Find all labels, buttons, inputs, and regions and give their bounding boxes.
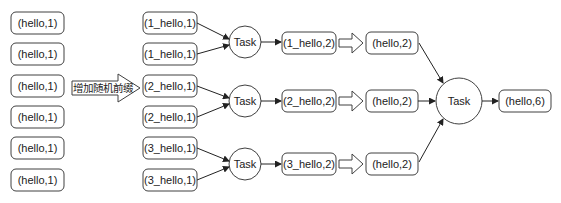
node-label: (2_hello,1) [144, 111, 196, 123]
node-label: (hello,6) [505, 95, 545, 107]
node-label: (hello,1) [18, 174, 58, 186]
node-label: (2_hello,1) [144, 80, 196, 92]
remove-prefix-arrow [339, 91, 363, 111]
node-label: (1_hello,2) [283, 37, 335, 49]
source-node: (hello,1) [11, 137, 64, 159]
node-label: (1_hello,1) [144, 48, 196, 60]
two-stage-aggregation-diagram: (hello,1) (hello,1) (hello,1) (hello,1) … [0, 0, 561, 203]
arrow-label: 增加随机前缀 [73, 82, 134, 94]
prefixed-node: (1_hello,1) [143, 12, 197, 34]
node-label: (hello,1) [18, 17, 58, 29]
edge [197, 86, 229, 98]
node-label: (hello,1) [18, 142, 58, 154]
edge [419, 43, 443, 83]
add-random-prefix-arrow: 增加随机前缀 [72, 74, 140, 102]
node-label: (hello,1) [18, 48, 58, 60]
node-label: (hello,2) [372, 158, 412, 170]
remove-prefix-arrow [339, 33, 363, 53]
task-label: Task [448, 95, 471, 107]
prefix-removed-node: (hello,2) [366, 32, 418, 54]
partial-result-node: (3_hello,2) [282, 153, 336, 175]
task-node: Task [229, 85, 261, 117]
prefix-removed-node: (hello,2) [366, 90, 418, 112]
prefixed-node: (1_hello,1) [143, 43, 197, 65]
edge [197, 104, 229, 117]
node-label: (3_hello,1) [144, 174, 196, 186]
edge [197, 23, 229, 39]
source-node: (hello,1) [11, 75, 64, 97]
final-result-node: (hello,6) [499, 90, 551, 112]
prefixed-node: (3_hello,1) [143, 169, 197, 191]
partial-result-node: (1_hello,2) [282, 32, 336, 54]
node-label: (hello,1) [18, 111, 58, 123]
task-label: Task [234, 36, 257, 48]
task-node: Task [229, 148, 261, 180]
final-task-node: Task [436, 78, 482, 124]
prefixed-node: (3_hello,1) [143, 137, 197, 159]
node-label: (2_hello,2) [283, 95, 335, 107]
node-label: (hello,2) [372, 95, 412, 107]
edge [419, 119, 443, 162]
source-node: (hello,1) [11, 43, 64, 65]
task-node: Task [229, 26, 261, 58]
node-label: (hello,1) [18, 80, 58, 92]
edge [197, 45, 229, 54]
prefixed-node: (2_hello,1) [143, 106, 197, 128]
prefix-removed-node: (hello,2) [366, 153, 418, 175]
source-node: (hello,1) [11, 169, 64, 191]
node-label: (3_hello,1) [144, 142, 196, 154]
edge [197, 148, 229, 161]
partial-result-node: (2_hello,2) [282, 90, 336, 112]
node-label: (1_hello,1) [144, 17, 196, 29]
task-label: Task [234, 95, 257, 107]
source-node: (hello,1) [11, 12, 64, 34]
task-label: Task [234, 158, 257, 170]
edge [197, 167, 229, 180]
prefixed-node: (2_hello,1) [143, 75, 197, 97]
remove-prefix-arrow [339, 154, 363, 174]
source-node: (hello,1) [11, 106, 64, 128]
node-label: (3_hello,2) [283, 158, 335, 170]
node-label: (hello,2) [372, 37, 412, 49]
